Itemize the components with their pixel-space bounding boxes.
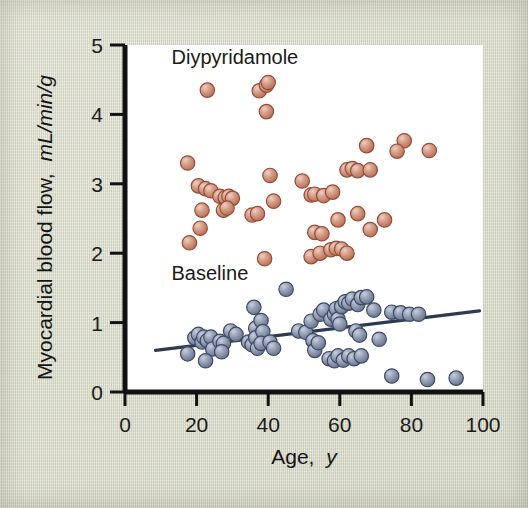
x-tick-label-80: 80 [400,413,423,436]
x-tick-label-100: 100 [465,413,500,436]
x-tick-label-60: 60 [328,413,351,436]
dipyridamole-point [257,252,271,266]
dipyridamole-point [263,168,277,182]
baseline-point [385,369,399,383]
baseline-label: Baseline [172,262,249,284]
y-axis-title-plain: Myocardial blood flow, [33,173,56,380]
dipyridamole-point [180,156,194,170]
dipyridamole-point [200,83,214,97]
dipyridamole-point [193,221,207,235]
svg-text:Myocardial blood flow,: Myocardial blood flow, mL/min/g [33,75,56,380]
dipyridamole-point [295,174,309,188]
y-tick-label-3: 3 [91,173,103,196]
baseline-point [247,300,261,314]
y-tick-label-1: 1 [91,312,103,335]
baseline-point [411,307,425,321]
x-axis-title-units: y [324,445,338,468]
baseline-point [180,347,194,361]
dipyridamole-point [325,185,339,199]
dipyridamole-point [250,206,264,220]
baseline-point [311,336,325,350]
dipyridamole-point [363,163,377,177]
dipyridamole-point [340,246,354,260]
x-axis-ticks: 020406080100 [119,392,500,436]
y-axis-title: Myocardial blood flow, mL/min/g [33,75,56,380]
dipyridamole-point [220,201,234,215]
baseline-point [198,354,212,368]
svg-text:Age, y: Age, y [271,445,338,468]
baseline-point [266,341,280,355]
figure-root: 012345 020406080100 Myocardial blood flo… [0,0,528,508]
dipyridamole-point [261,75,275,89]
scatter-plot: 012345 020406080100 Myocardial blood flo… [0,0,528,508]
dipyridamole-label: Diypyridamole [172,46,299,68]
baseline-point [354,349,368,363]
baseline-point [359,290,373,304]
y-tick-label-4: 4 [91,103,103,126]
baseline-point [333,317,347,331]
dipyridamole-point [390,144,404,158]
dipyridamole-point [363,222,377,236]
baseline-point [352,328,366,342]
plot-area [125,45,483,392]
baseline-point [367,303,381,317]
y-axis-title-units: mL/min/g [33,75,56,162]
dipyridamole-point [259,104,273,118]
baseline-point [214,345,228,359]
y-tick-label-0: 0 [91,381,103,404]
dipyridamole-point [377,213,391,227]
baseline-point [229,327,243,341]
y-axis-ticks: 012345 [91,34,125,404]
x-tick-label-40: 40 [257,413,280,436]
x-axis-title: Age, y [271,445,338,468]
x-tick-label-20: 20 [185,413,208,436]
dipyridamole-point [331,213,345,227]
y-tick-label-5: 5 [91,34,103,57]
baseline-point [279,282,293,296]
dipyridamole-point [351,206,365,220]
y-tick-label-2: 2 [91,242,103,265]
dipyridamole-point [422,143,436,157]
x-tick-label-0: 0 [119,413,131,436]
dipyridamole-point [195,203,209,217]
dipyridamole-point [266,194,280,208]
baseline-point [420,372,434,386]
dipyridamole-point [315,227,329,241]
x-axis-title-plain: Age, [271,445,314,468]
baseline-point [372,332,386,346]
dipyridamole-point [359,138,373,152]
dipyridamole-point [182,236,196,250]
baseline-point [449,371,463,385]
